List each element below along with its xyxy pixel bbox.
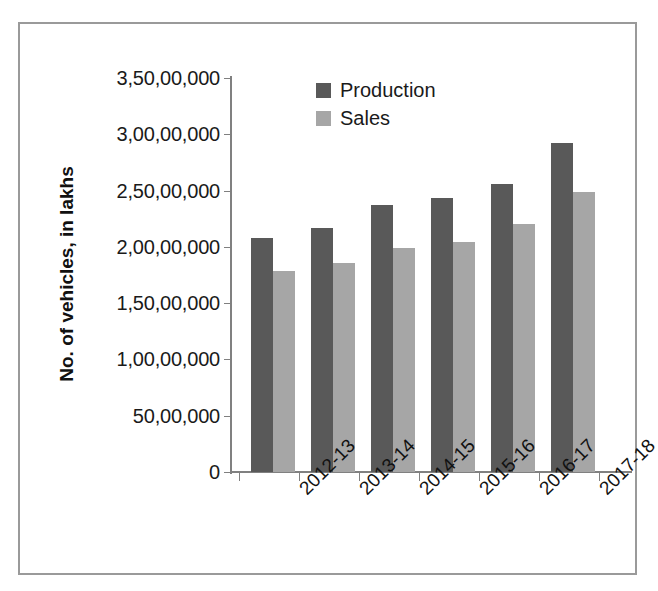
x-axis-tick-label: 2014-15 — [415, 484, 431, 500]
bar-production — [551, 143, 573, 472]
x-axis-tick-label: 2012-13 — [295, 484, 311, 500]
y-axis-title: No. of vehicles, in lakhs — [54, 84, 80, 464]
y-axis-tick — [224, 472, 231, 473]
bar-group — [491, 78, 535, 472]
legend-swatch-production-icon — [316, 83, 331, 98]
y-axis-tick-label: 50,00,000 — [133, 404, 220, 427]
legend-item-production: Production — [316, 76, 436, 104]
x-axis-tick-label: 2015-16 — [475, 484, 491, 500]
bar-group — [311, 78, 355, 472]
y-axis-tick-label: 2,00,00,000 — [117, 235, 220, 258]
plot-area: 050,00,0001,00,00,0001,50,00,0002,00,00,… — [231, 78, 631, 472]
legend-label-production: Production — [340, 79, 436, 102]
bar-group — [251, 78, 295, 472]
y-axis-tick-label: 3,00,00,000 — [117, 123, 220, 146]
x-axis-tick — [239, 472, 240, 481]
legend-label-sales: Sales — [340, 107, 390, 130]
bar-group — [551, 78, 595, 472]
chart-frame: No. of vehicles, in lakhs 050,00,0001,00… — [18, 22, 637, 575]
bar-group — [371, 78, 415, 472]
y-axis-tick — [224, 247, 231, 248]
x-axis-label: 2015-16 — [475, 484, 491, 500]
y-axis-tick-label: 1,00,00,000 — [117, 348, 220, 371]
y-axis-tick-label: 0 — [209, 461, 220, 484]
bar-production — [311, 228, 333, 472]
y-axis-tick — [224, 416, 231, 417]
bar-production — [371, 205, 393, 472]
bar-production — [251, 238, 273, 472]
chart-legend: Production Sales — [316, 76, 436, 132]
x-axis-tick-label: 2017-18 — [595, 484, 611, 500]
x-axis-label: 2012-13 — [295, 484, 311, 500]
bar-sales — [273, 271, 295, 473]
x-axis-label: 2013-14 — [355, 484, 371, 500]
y-axis-tick — [224, 303, 231, 304]
y-axis-tick-label: 1,50,00,000 — [117, 292, 220, 315]
y-axis-tick-label: 3,50,00,000 — [117, 67, 220, 90]
x-axis-tick-label: 2013-14 — [355, 484, 371, 500]
legend-swatch-sales-icon — [316, 111, 331, 126]
y-axis-tick-label: 2,50,00,000 — [117, 179, 220, 202]
x-axis-label: 2016-17 — [535, 484, 551, 500]
x-axis-label: 2014-15 — [415, 484, 431, 500]
bar-group — [431, 78, 475, 472]
y-axis-title-label: No. of vehicles, in lakhs — [56, 166, 78, 381]
legend-item-sales: Sales — [316, 104, 436, 132]
y-axis-tick — [224, 191, 231, 192]
x-axis-tick-label: 2016-17 — [535, 484, 551, 500]
y-axis-tick — [224, 78, 231, 79]
x-axis-label: 2017-18 — [595, 484, 611, 500]
bar-sales — [573, 192, 595, 472]
y-axis-tick — [224, 134, 231, 135]
bar-production — [491, 184, 513, 472]
y-axis-tick — [224, 359, 231, 360]
bar-production — [431, 198, 453, 472]
